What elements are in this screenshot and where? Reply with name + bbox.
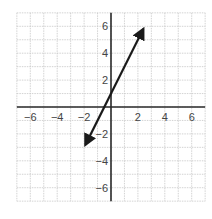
y-tick-label: −6 [95,182,108,194]
y-tick-label: −4 [95,155,108,167]
x-tick-label: 4 [162,111,168,123]
y-tick-label: −2 [95,128,108,140]
plot-area: −6−4−2246 642−2−4−6 [0,0,212,219]
y-tick-label: 4 [102,47,108,59]
x-axis-tick-labels: −6−4−2246 [24,111,195,123]
line-series [85,29,143,145]
data-series [85,29,143,145]
y-tick-label: 2 [102,74,108,86]
x-tick-label: −2 [78,111,91,123]
x-tick-label: 6 [189,111,195,123]
axes [17,13,205,201]
y-tick-label: 6 [102,20,108,32]
x-tick-label: −6 [24,111,37,123]
coordinate-plane-chart: −6−4−2246 642−2−4−6 [0,0,212,219]
x-tick-label: −4 [51,111,64,123]
x-tick-label: 2 [135,111,141,123]
